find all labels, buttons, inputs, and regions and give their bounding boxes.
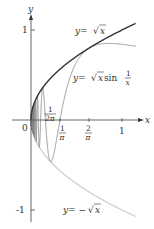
svg-text:π: π <box>59 133 66 142</box>
x-tick-label-1-over-2pi: 1 2π <box>44 105 56 123</box>
svg-text:π: π <box>85 133 92 142</box>
y-tick-label-neg1: -1 <box>16 205 25 215</box>
svg-text:1: 1 <box>60 124 65 133</box>
x-axis-label: x <box>145 115 150 125</box>
svg-text:=: = <box>78 73 86 83</box>
label-y-eq-sqrt-x: y = √ x <box>74 25 106 36</box>
svg-text:√: √ <box>91 73 97 83</box>
svg-text:x: x <box>98 73 103 83</box>
y-axis-label: y <box>27 4 34 14</box>
svg-text:√: √ <box>93 26 99 36</box>
svg-text:x: x <box>126 78 131 87</box>
label-y-eq-sqrt-x-sin-inv-x: y = √ x sin 1 x <box>72 69 131 87</box>
svg-text:1: 1 <box>48 105 53 114</box>
chart-figure: y x 1 -1 0 1 1 2π 1 π 2 π y = √ x y = √ … <box>0 0 154 229</box>
y-tick-label-1: 1 <box>22 25 28 35</box>
label-y-eq-neg-sqrt-x: y = − √ x <box>62 204 101 215</box>
y-axis-arrow-icon <box>29 14 33 20</box>
curve-sqrt-x <box>31 23 136 120</box>
curve-sqrt-x-sin-inv-x <box>31 43 135 161</box>
svg-text:2: 2 <box>86 124 91 133</box>
x-tick-label-1-over-pi: 1 π <box>59 124 67 142</box>
svg-text:2π: 2π <box>44 114 56 123</box>
origin-label: 0 <box>22 123 28 133</box>
x-tick-label-2-over-pi: 2 π <box>85 124 93 142</box>
svg-text:=: = <box>80 26 88 36</box>
svg-text:sin: sin <box>104 73 117 83</box>
svg-text:x: x <box>95 205 100 215</box>
svg-text:x: x <box>100 26 105 36</box>
x-axis-arrow-icon <box>138 118 144 122</box>
svg-text:√: √ <box>88 205 94 215</box>
x-tick-label-1: 1 <box>119 126 125 136</box>
svg-text:= −: = − <box>68 205 86 215</box>
svg-text:1: 1 <box>126 69 131 78</box>
